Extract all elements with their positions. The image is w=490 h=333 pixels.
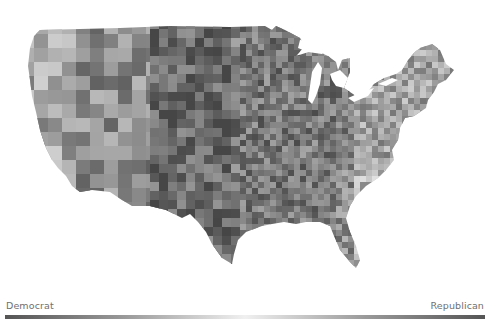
county-cells	[20, 20, 480, 290]
map-svg	[0, 0, 490, 290]
legend-label-republican: Republican	[431, 300, 484, 311]
legend-gradient-bar	[5, 315, 485, 319]
us-county-map	[0, 0, 490, 290]
color-legend: Democrat Republican	[0, 296, 490, 333]
legend-label-democrat: Democrat	[6, 300, 54, 311]
